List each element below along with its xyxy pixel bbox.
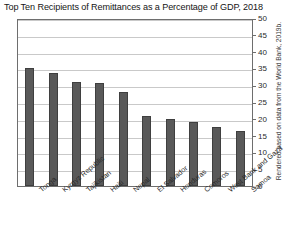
y-tick-mark — [253, 119, 256, 120]
chart-title: Top Ten Recipients of Remittances as a P… — [4, 1, 263, 13]
y-tick-mark — [253, 86, 256, 87]
y-tick-mark — [253, 153, 256, 154]
y-tick-mark — [253, 103, 256, 104]
x-tick-label: Kyrgyz Republic — [61, 188, 66, 194]
x-tick-label: Tajikistan — [85, 188, 90, 194]
y-tick-label: 50 — [258, 15, 267, 23]
bar-slot — [158, 20, 181, 186]
bar[interactable] — [49, 73, 58, 186]
x-tick-label: El Salvador — [156, 188, 161, 194]
y-tick-mark — [253, 69, 256, 70]
x-tick-label: Samoa — [250, 188, 255, 194]
bar-slot — [182, 20, 205, 186]
y-tick-mark — [253, 19, 256, 20]
bar[interactable] — [25, 68, 34, 186]
y-tick: 50 — [253, 14, 267, 24]
y-tick-label: 35 — [258, 65, 267, 73]
y-tick: 40 — [253, 48, 267, 58]
y-tick-mark — [253, 136, 256, 137]
x-axis-labels: TongaKyrgyz RepublicTajikistanHaitiNepal… — [17, 188, 253, 244]
y-tick-label: 15 — [258, 133, 267, 141]
y-tick: 15 — [253, 132, 267, 142]
bar-slot — [112, 20, 135, 186]
bar-series — [18, 20, 252, 186]
x-tick-label: Haiti — [109, 188, 114, 194]
y-tick: 25 — [253, 98, 267, 108]
x-tick-label: Nepal — [132, 188, 137, 194]
bar-slot — [65, 20, 88, 186]
bar[interactable] — [119, 92, 128, 186]
x-tick-label: Honduras — [179, 188, 184, 194]
source-note-text: Rendered based on data from the World Ba… — [275, 22, 283, 180]
y-tick-label: 40 — [258, 49, 267, 57]
x-tick-label: Tonga — [38, 188, 43, 194]
y-tick-mark — [253, 52, 256, 53]
y-tick-mark — [253, 35, 256, 36]
source-note: Rendered based on data from the World Ba… — [272, 22, 286, 197]
y-tick: 20 — [253, 115, 267, 125]
bar-slot — [135, 20, 158, 186]
y-tick-label: 25 — [258, 99, 267, 107]
bar-slot — [18, 20, 41, 186]
bar-slot — [229, 20, 252, 186]
y-tick-label: 30 — [258, 82, 267, 90]
y-tick: 30 — [253, 81, 267, 91]
bar-slot — [41, 20, 64, 186]
y-tick: 35 — [253, 64, 267, 74]
y-tick: 45 — [253, 31, 267, 41]
chart-figure: Top Ten Recipients of Remittances as a P… — [0, 0, 290, 244]
y-tick-label: 45 — [258, 32, 267, 40]
plot-area — [17, 19, 253, 187]
x-tick-label: West Bank and Gaza — [227, 188, 232, 194]
x-tick-label: Comoros — [203, 188, 208, 194]
bar-slot — [205, 20, 228, 186]
y-tick-label: 20 — [258, 116, 267, 124]
